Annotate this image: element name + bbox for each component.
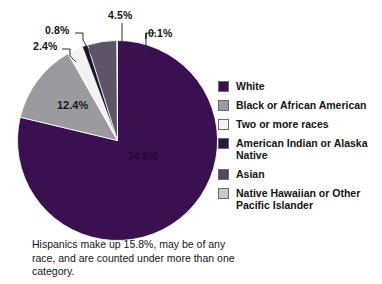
pie-svg [17, 40, 218, 241]
legend-label-american-indian-or-alaska-native: American Indian or Alaska Native [236, 137, 378, 161]
callout-label-american-indian: 0.8% [45, 24, 69, 36]
slice-label-white: 74.8% [128, 150, 158, 162]
callout-label-native-hawaiian: 0.1% [148, 27, 172, 39]
legend-label-asian: Asian [236, 168, 265, 180]
legend-item-black-or-african-american: Black or African American [218, 99, 378, 111]
legend-swatch-black-or-african-american [218, 100, 229, 111]
legend-label-two-or-more-races: Two or more races [236, 118, 329, 130]
chart-caption: Hispanics make up 15.8%, may be of any r… [32, 238, 247, 279]
legend-swatch-white [218, 81, 229, 92]
legend-swatch-asian [218, 169, 229, 180]
pie-chart-figure: 2.4% 0.8% 4.5% 0.1% 12.4% 74.8% White Bl… [0, 0, 382, 284]
legend-item-american-indian-or-alaska-native: American Indian or Alaska Native [218, 137, 378, 161]
callout-label-asian: 4.5% [108, 9, 132, 21]
slice-label-black-or-african-american: 12.4% [57, 99, 88, 111]
legend-label-black-or-african-american: Black or African American [236, 99, 367, 111]
legend-swatch-two-or-more-races [218, 119, 229, 130]
legend-label-native-hawaiian-or-other-pacific-islander: Native Hawaiian or Other Pacific Islande… [236, 187, 378, 211]
pie-chart-graphic [17, 40, 218, 241]
legend-item-white: White [218, 80, 378, 92]
callout-label-two-or-more-races: 2.4% [33, 40, 57, 52]
chart-legend: White Black or African American Two or m… [218, 80, 378, 218]
legend-swatch-american-indian-or-alaska-native [218, 138, 229, 149]
legend-label-white: White [236, 80, 265, 92]
legend-item-native-hawaiian-or-other-pacific-islander: Native Hawaiian or Other Pacific Islande… [218, 187, 378, 211]
legend-item-asian: Asian [218, 168, 378, 180]
legend-item-two-or-more-races: Two or more races [218, 118, 378, 130]
legend-swatch-native-hawaiian-or-other-pacific-islander [218, 188, 229, 199]
